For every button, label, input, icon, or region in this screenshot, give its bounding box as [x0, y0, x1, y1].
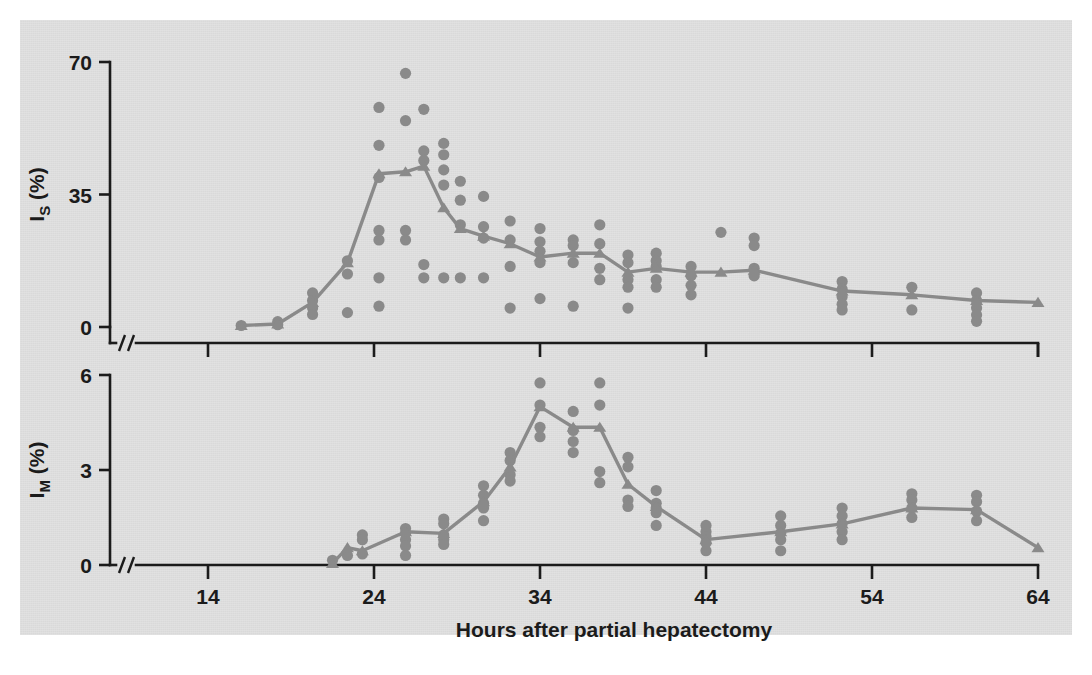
bottom-data-point	[700, 545, 711, 556]
top-data-point	[478, 221, 489, 232]
bottom-data-point	[357, 534, 368, 545]
bottom-data-point	[906, 512, 917, 523]
top-data-point	[837, 304, 848, 315]
x-axis-tick-label: 54	[860, 585, 884, 608]
bottom-data-point	[651, 485, 662, 496]
bottom-data-point	[438, 518, 449, 529]
bottom-panel-y-tick-label: 3	[80, 459, 92, 482]
top-data-point	[342, 307, 353, 318]
top-data-point	[373, 102, 384, 113]
top-data-point	[534, 223, 545, 234]
bottom-data-point	[622, 461, 633, 472]
top-data-point	[594, 274, 605, 285]
top-data-point	[438, 164, 449, 175]
x-axis-tick-label: 64	[1026, 585, 1050, 608]
bottom-data-point	[837, 534, 848, 545]
top-data-point	[373, 301, 384, 312]
top-data-point	[373, 234, 384, 245]
top-data-point	[505, 215, 516, 226]
chart-svg: 70350IS (%)630142434445464IM (%)Hours af…	[0, 0, 1092, 675]
top-data-point	[478, 272, 489, 283]
top-data-point	[906, 304, 917, 315]
bottom-data-point	[594, 477, 605, 488]
top-data-point	[418, 259, 429, 270]
top-data-point	[438, 179, 449, 190]
top-data-point	[505, 261, 516, 272]
top-data-point	[342, 268, 353, 279]
top-data-point	[715, 227, 726, 238]
x-axis-title: Hours after partial hepatectomy	[456, 618, 773, 641]
top-data-point	[971, 316, 982, 327]
bottom-data-point	[594, 377, 605, 388]
top-data-point	[455, 272, 466, 283]
top-mean-line	[241, 166, 1038, 325]
bottom-data-point	[534, 431, 545, 442]
bottom-data-point	[594, 466, 605, 477]
top-panel-axis-break-icon	[119, 335, 125, 351]
top-data-point	[568, 301, 579, 312]
top-panel-y-tick-label: 70	[69, 51, 92, 74]
bottom-data-point	[971, 515, 982, 526]
bottom-data-point	[438, 539, 449, 550]
bottom-panel-axis-break-icon	[128, 557, 134, 573]
top-data-point	[438, 272, 449, 283]
bottom-data-point	[534, 377, 545, 388]
top-data-point	[594, 238, 605, 249]
bottom-data-point	[651, 520, 662, 531]
bottom-panel-y-tick-label: 0	[80, 554, 92, 577]
top-data-point	[622, 302, 633, 313]
top-data-point	[685, 289, 696, 300]
top-panel-y-tick-label: 0	[80, 316, 92, 339]
bottom-panel-y-axis-title: IM (%)	[25, 442, 53, 499]
bottom-data-point	[622, 501, 633, 512]
top-panel-y-tick-label: 35	[69, 184, 93, 207]
top-data-point	[534, 293, 545, 304]
bottom-data-point	[594, 399, 605, 410]
x-axis-tick-label: 24	[362, 585, 386, 608]
top-data-point	[594, 219, 605, 230]
top-data-point	[418, 104, 429, 115]
top-panel-y-axis-title-text: IS (%)	[25, 167, 53, 221]
top-data-point	[400, 234, 411, 245]
bottom-panel-axis-break-icon	[119, 557, 125, 573]
top-data-point	[455, 176, 466, 187]
x-axis-tick-label: 14	[196, 585, 220, 608]
bottom-data-point	[400, 550, 411, 561]
bottom-data-point	[568, 406, 579, 417]
top-data-point	[400, 115, 411, 126]
top-data-point	[438, 138, 449, 149]
top-data-point	[373, 272, 384, 283]
bottom-data-point	[775, 545, 786, 556]
bottom-panel-y-tick-label: 6	[80, 364, 92, 387]
top-data-point	[478, 191, 489, 202]
top-data-point	[568, 257, 579, 268]
top-data-point	[622, 282, 633, 293]
bottom-data-point	[505, 475, 516, 486]
top-data-point	[438, 149, 449, 160]
figure-container: 70350IS (%)630142434445464IM (%)Hours af…	[0, 0, 1092, 675]
bottom-data-point	[478, 515, 489, 526]
top-data-point	[455, 195, 466, 206]
top-data-point	[400, 68, 411, 79]
bottom-panel-y-axis-title-text: IM (%)	[25, 442, 53, 499]
bottom-data-point	[568, 436, 579, 447]
bottom-data-point	[568, 447, 579, 458]
x-axis-tick-label: 34	[528, 585, 552, 608]
top-panel-y-axis-title: IS (%)	[25, 167, 53, 221]
top-data-point	[651, 282, 662, 293]
top-data-point	[418, 272, 429, 283]
top-mean-marker	[437, 202, 450, 212]
top-data-point	[622, 257, 633, 268]
top-data-point	[373, 140, 384, 151]
top-data-point	[594, 263, 605, 274]
top-data-point	[505, 302, 516, 313]
x-axis-tick-label: 44	[694, 585, 718, 608]
bottom-mean-marker	[621, 479, 634, 489]
top-data-point	[749, 240, 760, 251]
top-data-point	[307, 309, 318, 320]
top-panel-axis-break-icon	[128, 335, 134, 351]
